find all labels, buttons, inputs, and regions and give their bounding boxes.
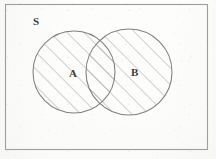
set-label-a: A [69, 68, 77, 79]
set-label-b: B [131, 67, 138, 78]
venn-diagram-figure: S A B [0, 0, 216, 159]
universe-label-s: S [33, 16, 39, 27]
